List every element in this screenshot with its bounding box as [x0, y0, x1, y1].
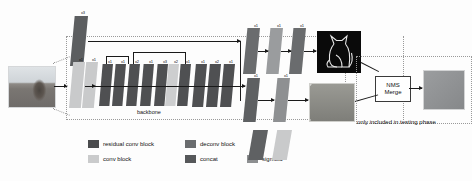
- backbone-center-line: [95, 86, 245, 87]
- testing-phase-caption: only included in testing phase: [357, 119, 436, 126]
- contour-output-image: [317, 31, 361, 73]
- legend-decor-slab-1: [248, 130, 268, 160]
- input-image: [8, 66, 56, 108]
- backbone-label: backbone: [137, 109, 161, 115]
- texture-output-image: [309, 83, 355, 122]
- top-branch-slab-3-label: x1: [300, 24, 304, 28]
- skip-bracket-1-left: [106, 56, 107, 64]
- backbone-slab-1-face: [99, 64, 113, 106]
- backbone-slab-4-label: x1: [149, 60, 153, 64]
- top-branch-slab-1-label: x1: [254, 24, 258, 28]
- skip-arrow-top: [232, 41, 240, 42]
- bottom-branch-slab-2-label: x1: [284, 74, 288, 78]
- backbone-slab-7-face: [177, 64, 191, 106]
- skip-bracket-2: [133, 52, 185, 53]
- backbone-slab-10-label: x1: [229, 60, 233, 64]
- skip-bracket-1-right: [128, 56, 129, 64]
- legend-decor-slab-2-face: [272, 130, 292, 160]
- cat-contour-svg: [317, 31, 361, 73]
- backbone-slab-3-face: [126, 64, 140, 106]
- legend-label-deconv-block: deconv block: [200, 141, 235, 148]
- backbone-slab-7-label: x1: [186, 60, 190, 64]
- legend-swatch-concat: [185, 155, 196, 163]
- testing-phase-region: [356, 56, 472, 124]
- architecture-diagram: x3 x1 x1 x1 x1 x2 x1 x3 x2 x1 x1: [0, 0, 472, 181]
- skip-line-top: [88, 41, 240, 42]
- legend-label-conv-block: conv block: [103, 156, 131, 163]
- legend-decor-slab-2: [272, 130, 292, 160]
- stem-arrow-1: [85, 86, 95, 87]
- top-branch-slab-2-label: x1: [277, 24, 281, 28]
- bottom-branch-slab-1-label: x1: [254, 74, 258, 78]
- backbone-slab-4: [140, 64, 154, 106]
- legend-item-concat: concat: [185, 155, 218, 163]
- top-branch-arrow-2: [281, 51, 291, 52]
- branch-split-line: [240, 41, 241, 101]
- legend-swatch-conv-block: [88, 155, 99, 163]
- backbone-slab-1: [99, 64, 113, 106]
- stem-slab-top-label: x3: [81, 11, 85, 15]
- backbone-slab-7: [177, 64, 191, 106]
- skip-bracket-1: [106, 56, 128, 57]
- backbone-slab-9-label: x2: [215, 60, 219, 64]
- stem-slab-2-label: x1: [92, 58, 96, 62]
- legend-item-conv-block: conv block: [88, 155, 131, 163]
- backbone-slab-2-face: [112, 64, 126, 106]
- bottom-branch-arrow-2: [288, 100, 308, 101]
- legend-item-residual-conv-block: residual conv block: [88, 140, 154, 148]
- backbone-slab-3-label: x2: [135, 60, 139, 64]
- top-branch-arrow-3: [304, 51, 316, 52]
- skip-bracket-2-right: [185, 52, 186, 64]
- backbone-slab-8-label: x1: [201, 60, 205, 64]
- legend-swatch-residual-conv-block: [88, 140, 99, 148]
- skip-bracket-2-left: [133, 52, 134, 64]
- backbone-slab-2-label: x1: [121, 60, 125, 64]
- legend-item-deconv-block: deconv block: [185, 140, 235, 148]
- legend-label-residual-conv-block: residual conv block: [103, 141, 154, 148]
- backbone-slab-2: [112, 64, 126, 106]
- legend-swatch-deconv-block: [185, 140, 196, 148]
- bottom-branch-arrow-1: [258, 100, 274, 101]
- backbone-slab-4-face: [140, 64, 154, 106]
- legend-decor-slab-1-face: [248, 130, 268, 160]
- top-branch-arrow-1: [258, 51, 268, 52]
- backbone-slab-3: [126, 64, 140, 106]
- legend-label-concat: concat: [200, 156, 218, 163]
